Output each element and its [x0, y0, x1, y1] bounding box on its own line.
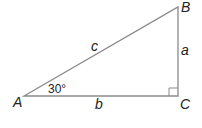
right-triangle-diagram: A B C c a b 30° — [0, 0, 202, 128]
side-label-a: a — [181, 42, 189, 58]
side-label-c: c — [91, 38, 98, 54]
vertex-label-a: A — [12, 94, 22, 110]
angle-label-a: 30° — [48, 82, 66, 96]
vertex-label-c: C — [180, 96, 191, 112]
vertex-label-b: B — [181, 0, 190, 15]
side-label-b: b — [95, 96, 103, 112]
right-angle-marker — [169, 88, 178, 96]
